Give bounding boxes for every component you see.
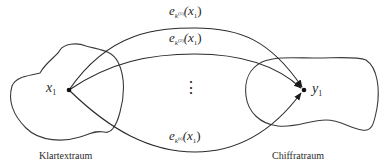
mapping-label-t: ek(t)(x1) xyxy=(169,128,201,145)
target-point xyxy=(302,88,307,93)
target-point-label: y1 xyxy=(312,81,322,98)
source-point xyxy=(67,88,72,93)
source-point-label: x1 xyxy=(46,80,56,97)
mapping-label-1: ek(1)(x1) xyxy=(169,3,202,20)
encryption-diagram: ek(1)(x1) ek(2)(x1) ek(t)(x1) ⋮ x1 y1 Kl… xyxy=(0,0,386,164)
ciphertext-space-label: Chiffratraum xyxy=(272,150,324,161)
mapping-label-2: ek(2)(x1) xyxy=(169,30,202,47)
plaintext-space-outline xyxy=(11,44,124,140)
ellipsis-icon: ⋮ xyxy=(183,80,199,96)
plaintext-space-label: Klartextraum xyxy=(39,150,92,161)
